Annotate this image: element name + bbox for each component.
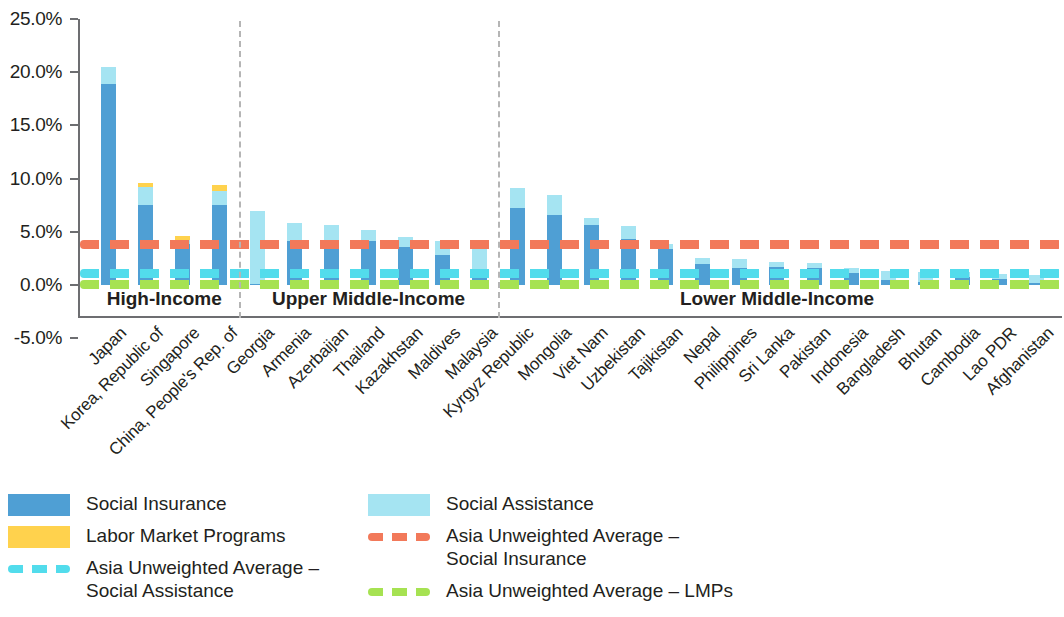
reference-line-social-insurance bbox=[80, 240, 1062, 249]
legend-item[interactable]: Social Insurance bbox=[8, 492, 226, 516]
y-axis-tick-mark bbox=[70, 124, 78, 126]
legend-item[interactable]: Labor Market Programs bbox=[8, 524, 286, 548]
legend-color-swatch bbox=[8, 494, 70, 516]
reference-line-lmps bbox=[80, 280, 1062, 289]
income-group-label: High-Income bbox=[107, 288, 222, 310]
legend-label: Social Insurance bbox=[86, 492, 226, 515]
y-axis-tick-label: 0.0% bbox=[0, 275, 62, 294]
legend-item[interactable]: Asia Unweighted Average – Social Assista… bbox=[8, 556, 319, 602]
legend-label: Asia Unweighted Average – Social Insuran… bbox=[446, 524, 679, 570]
chart-figure: 25.0%20.0%15.0%10.0%5.0%0.0%-5.0% High-I… bbox=[0, 0, 1064, 617]
income-group-label: Upper Middle-Income bbox=[272, 288, 465, 310]
bar-segment-social-assistance bbox=[732, 259, 747, 268]
legend-dash-glyph bbox=[368, 588, 430, 596]
y-axis-tick-label: 5.0% bbox=[0, 222, 62, 241]
legend-label: Labor Market Programs bbox=[86, 524, 286, 547]
y-axis-tick-mark bbox=[70, 178, 78, 180]
y-axis-tick-label: 25.0% bbox=[0, 9, 62, 28]
chart-legend: Social InsuranceLabor Market ProgramsAsi… bbox=[0, 492, 1064, 617]
income-group-separator bbox=[239, 21, 241, 318]
bar-segment-social-assistance bbox=[287, 223, 302, 241]
legend-dash-swatch bbox=[368, 526, 430, 548]
y-axis-tick-mark bbox=[70, 71, 78, 73]
bar-segment-social-assistance bbox=[807, 263, 822, 268]
bar-segment-labor-market-programs bbox=[138, 183, 153, 187]
bar-segment-social-assistance bbox=[695, 258, 710, 263]
bar-segment-social-assistance bbox=[510, 188, 525, 208]
legend-dash-swatch bbox=[8, 558, 70, 580]
y-axis-tick-label: 10.0% bbox=[0, 169, 62, 188]
income-group-label: Lower Middle-Income bbox=[680, 288, 874, 310]
legend-dash-swatch bbox=[368, 581, 430, 603]
bar-segment-social-assistance bbox=[621, 226, 636, 239]
y-axis-tick-mark bbox=[70, 284, 78, 286]
legend-dash-glyph bbox=[368, 533, 430, 541]
legend-label: Social Assistance bbox=[446, 492, 594, 515]
bar-segment-social-insurance bbox=[324, 242, 339, 285]
reference-line-dash bbox=[80, 240, 1062, 249]
bar-segment-social-assistance bbox=[138, 187, 153, 205]
y-axis-tick-mark bbox=[70, 18, 78, 20]
reference-line-dash bbox=[80, 269, 1062, 278]
y-axis-tick-mark bbox=[70, 231, 78, 233]
y-axis-tick-label: 20.0% bbox=[0, 62, 62, 81]
legend-label: Asia Unweighted Average – Social Assista… bbox=[86, 556, 319, 602]
bar-segment-social-assistance bbox=[212, 191, 227, 205]
reference-line-social-assistance bbox=[80, 269, 1062, 278]
bar-segment-labor-market-programs bbox=[212, 185, 227, 191]
bar-segment-social-insurance bbox=[175, 244, 190, 285]
legend-item[interactable]: Asia Unweighted Average – Social Insuran… bbox=[368, 524, 679, 570]
income-group-separator bbox=[498, 21, 500, 318]
x-axis-labels: JapanKorea, Republic ofSingaporeChina, P… bbox=[0, 322, 1064, 432]
legend-dash-glyph bbox=[8, 565, 70, 573]
bar-segment-social-assistance bbox=[769, 262, 784, 267]
legend-color-swatch bbox=[368, 494, 430, 516]
bar-segment-social-assistance bbox=[472, 246, 487, 270]
legend-label: Asia Unweighted Average – LMPs bbox=[446, 579, 733, 602]
bar-segment-social-assistance bbox=[547, 195, 562, 215]
bar-segment-social-insurance bbox=[101, 84, 116, 285]
bar-segment-social-assistance bbox=[101, 67, 116, 84]
legend-item[interactable]: Asia Unweighted Average – LMPs bbox=[368, 579, 733, 603]
y-axis-tick-label: 15.0% bbox=[0, 115, 62, 134]
legend-item[interactable]: Social Assistance bbox=[368, 492, 594, 516]
reference-line-dash bbox=[80, 280, 1062, 289]
legend-color-swatch bbox=[8, 526, 70, 548]
bar-segment-social-assistance bbox=[584, 218, 599, 225]
